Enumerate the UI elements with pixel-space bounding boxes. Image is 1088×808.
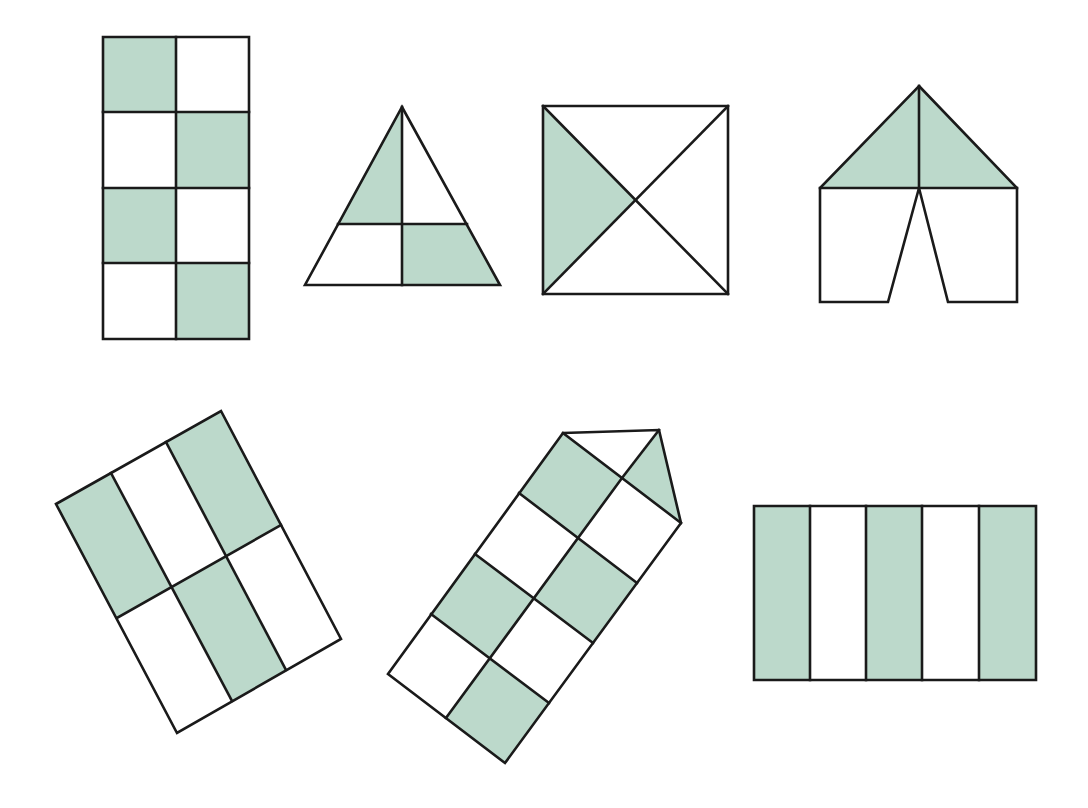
figure-checkered-rectangle	[103, 37, 249, 339]
figure-rotated-rectangle-grid	[56, 411, 341, 733]
figure-square-diagonals	[543, 106, 728, 294]
figure-striped-rectangle	[754, 506, 1036, 680]
fractions-diagram-canvas	[0, 0, 1088, 808]
shaded-region	[176, 263, 249, 339]
figure-divided-triangle	[305, 107, 500, 285]
shaded-region	[402, 224, 500, 285]
shaded-region	[979, 506, 1036, 680]
shaded-region	[176, 112, 249, 188]
shaded-region	[866, 506, 922, 680]
figure-tent-shape	[820, 86, 1017, 302]
shaded-region	[754, 506, 810, 680]
shaded-region	[103, 37, 176, 112]
shaded-region	[103, 188, 176, 263]
figure-rotated-house-grid	[388, 430, 681, 763]
